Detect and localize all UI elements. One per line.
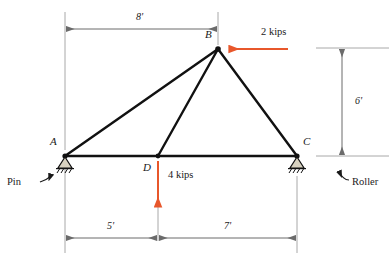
dimension-label-5ft: 5'	[107, 221, 114, 231]
member-BC	[218, 49, 297, 156]
joint-B	[215, 46, 221, 52]
node-label-D: D	[143, 162, 151, 173]
dimension-label-7ft: 7'	[224, 221, 231, 231]
member-BD	[158, 49, 218, 156]
applied-forces	[158, 49, 288, 207]
roller-support-symbol	[288, 157, 306, 173]
node-label-B: B	[205, 29, 212, 40]
support-label-roller: Roller	[352, 177, 378, 188]
truss-diagram-figure: A B C D 8' 5' 7' 6' 2 kips 4 kips Pin Ro…	[0, 0, 392, 267]
dimension-label-6ft: 6'	[355, 96, 362, 106]
node-label-C: C	[303, 136, 310, 147]
truss-members	[65, 49, 297, 156]
support-leader-lines	[40, 171, 349, 182]
extension-lines	[65, 12, 389, 253]
truss-joints	[62, 46, 299, 158]
joint-D	[156, 154, 161, 159]
node-label-A: A	[50, 136, 57, 147]
dimension-label-8ft: 8'	[136, 12, 143, 22]
roller-leader-line	[339, 171, 349, 180]
truss-diagram-canvas	[0, 0, 392, 267]
force-label-4-kips: 4 kips	[168, 170, 193, 181]
member-AB	[65, 49, 218, 156]
pin-leader-line	[40, 174, 51, 182]
support-label-pin: Pin	[7, 177, 21, 188]
dimension-lines	[66, 29, 342, 238]
force-label-2-kips: 2 kips	[261, 27, 286, 38]
